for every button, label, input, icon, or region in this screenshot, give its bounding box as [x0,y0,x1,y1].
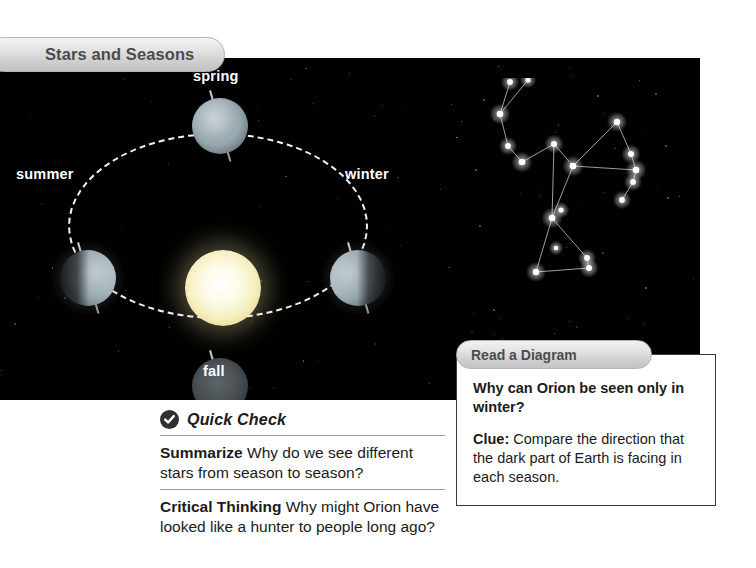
star-speck [693,278,694,279]
star-speck [608,116,609,117]
textbook-page: spring summer winter fall Orion Stars an… [0,0,756,568]
star-speck [569,321,570,322]
star-speck [539,187,540,188]
orion-constellation: Orion [470,78,680,318]
clue-label: Clue: [473,431,509,447]
star-speck [494,334,495,335]
quick-check-item-critical-thinking: Critical Thinking Why might Orion have l… [160,497,445,537]
star-speck [558,124,560,126]
star-speck [257,109,258,110]
star-speck [14,323,16,325]
quick-check-item-label: Critical Thinking [160,498,281,515]
star-speck [123,79,124,80]
star-speck [397,177,399,179]
earth-globe [192,98,248,154]
star-speck [602,252,604,254]
read-a-diagram-body: Why can Orion be seen only in winter? Cl… [456,354,716,506]
star-speck [569,67,570,68]
star-speck [285,176,287,178]
quick-check-item-label: Summarize [160,444,243,461]
season-label-winter: winter [345,166,389,182]
star-speck [627,318,628,319]
quick-check-section: Quick Check Summarize Why do we see diff… [160,410,445,538]
read-a-diagram-clue: Clue: Compare the direction that the dar… [473,430,699,488]
star-speck [273,387,274,388]
section-title-text: Stars and Seasons [45,45,194,64]
star-speck [261,280,262,281]
star-speck [576,326,578,328]
star-speck [168,164,169,165]
section-title-tab: Stars and Seasons [0,37,225,72]
star-speck [367,226,368,227]
star-speck [258,120,259,121]
read-a-diagram-tab-label: Read a Diagram [471,347,577,363]
earth-globe [60,250,116,306]
check-icon [160,410,179,429]
star-speck [200,290,201,291]
star-speck [374,343,376,345]
star-speck [679,196,680,197]
star-speck [461,121,462,122]
star-speck [554,333,555,334]
earth-summer [60,250,116,306]
orion-star-map [470,78,680,318]
star-speck [498,66,499,67]
star-speck [448,267,450,269]
star-speck [500,318,501,319]
star-speck [205,110,206,111]
read-a-diagram-callout: Read a Diagram Why can Orion be seen onl… [456,340,716,506]
quick-check-item-summarize: Summarize Why do we see different stars … [160,443,445,483]
star-speck [41,203,42,204]
star-speck [38,297,39,298]
divider [160,435,445,436]
star-speck [312,110,313,111]
star-speck [290,79,292,81]
star-speck [64,297,66,299]
star-speck [400,245,401,246]
read-a-diagram-question: Why can Orion be seen only in winter? [473,379,699,418]
quick-check-header: Quick Check [160,410,445,429]
read-a-diagram-tab: Read a Diagram [456,340,652,369]
star-speck [251,321,252,322]
season-label-fall: fall [203,363,225,379]
star-speck [374,115,376,117]
star-speck [260,140,261,141]
earth-globe [330,250,386,306]
star-speck [520,193,521,194]
star-speck [259,206,260,207]
star-speck [456,137,458,139]
sun-icon [185,250,261,326]
star-speck [603,113,604,114]
star-speck [471,331,473,333]
earth-spring [192,98,248,154]
divider [160,489,445,490]
star-speck [540,196,541,197]
season-label-summer: summer [16,166,74,182]
quick-check-title: Quick Check [187,411,286,429]
earth-winter [330,250,386,306]
star-speck [169,327,170,328]
star-speck [1,370,2,371]
earth-orbit-diagram: spring summer winter fall [0,58,460,400]
star-speck [644,324,645,325]
